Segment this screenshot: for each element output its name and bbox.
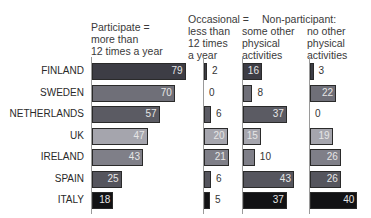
bar-value: 0 [315, 108, 321, 119]
header-line: more than [91, 33, 163, 45]
header-non-participant: Non-participant: [262, 13, 336, 25]
header-occasional: Occasional = less than 12 times a year [188, 13, 249, 61]
bar-value: 40 [310, 194, 354, 205]
bar-sweden-s3 [243, 85, 252, 102]
bar-value: 6 [216, 173, 222, 184]
bar-value: 25 [92, 173, 119, 184]
bar-netherlands-s2 [204, 106, 211, 123]
bar-italy-s2 [204, 192, 210, 209]
country-label: FINLAND [0, 65, 84, 76]
bar-value: 26 [310, 151, 338, 162]
header-line: 12 times a year [91, 45, 163, 57]
bar-value: 10 [260, 151, 271, 162]
bar-value: 43 [243, 173, 291, 184]
bar-value: 57 [92, 108, 157, 119]
bar-value: 8 [257, 87, 263, 98]
bar-value: 47 [92, 130, 145, 141]
header-line: a year [188, 49, 249, 61]
header-line: physical [242, 37, 295, 49]
bar-value: 15 [243, 130, 258, 141]
bar-value: 6 [216, 108, 222, 119]
header-some-other: some other physical activities [242, 25, 295, 61]
bar-value: 79 [92, 65, 183, 76]
header-line: less than [188, 25, 249, 37]
bar-value: 26 [310, 173, 338, 184]
header-line: Occasional = [188, 13, 249, 25]
bar-value: 3 [319, 65, 325, 76]
bar-value: 20 [204, 130, 225, 141]
header-line: no other [307, 25, 347, 37]
country-label: SWEDEN [0, 87, 84, 98]
header-line: 12 times [188, 37, 249, 49]
country-label: ITALY [0, 194, 84, 205]
bar-ireland-s3 [243, 149, 255, 166]
bar-value: 2 [212, 65, 218, 76]
bar-value: 37 [243, 108, 284, 119]
bar-finland-s2 [204, 63, 207, 80]
bar-value: 18 [92, 194, 110, 205]
bar-value: 70 [92, 87, 172, 98]
header-line: some other [242, 25, 295, 37]
bar-value: 19 [310, 130, 330, 141]
header-line: physical [307, 37, 347, 49]
header-participate: Participate = more than 12 times a year [91, 21, 163, 57]
bar-spain-s2 [204, 171, 211, 188]
bar-value: 0 [209, 87, 215, 98]
country-label: IRELAND [0, 151, 84, 162]
header-no-other: no other physical activities [307, 25, 347, 61]
bar-value: 37 [243, 194, 284, 205]
bar-value: 5 [215, 194, 221, 205]
country-label: SPAIN [0, 173, 84, 184]
header-line: activities [307, 49, 347, 61]
header-line: activities [242, 49, 295, 61]
country-label: NETHERLANDS [0, 108, 84, 119]
bar-value: 21 [204, 151, 226, 162]
bar-value: 22 [310, 87, 333, 98]
header-line: Participate = [91, 21, 163, 33]
bar-value: 43 [92, 151, 140, 162]
bar-finland-s4 [310, 63, 314, 80]
bar-value: 16 [243, 65, 259, 76]
country-label: UK [0, 130, 84, 141]
